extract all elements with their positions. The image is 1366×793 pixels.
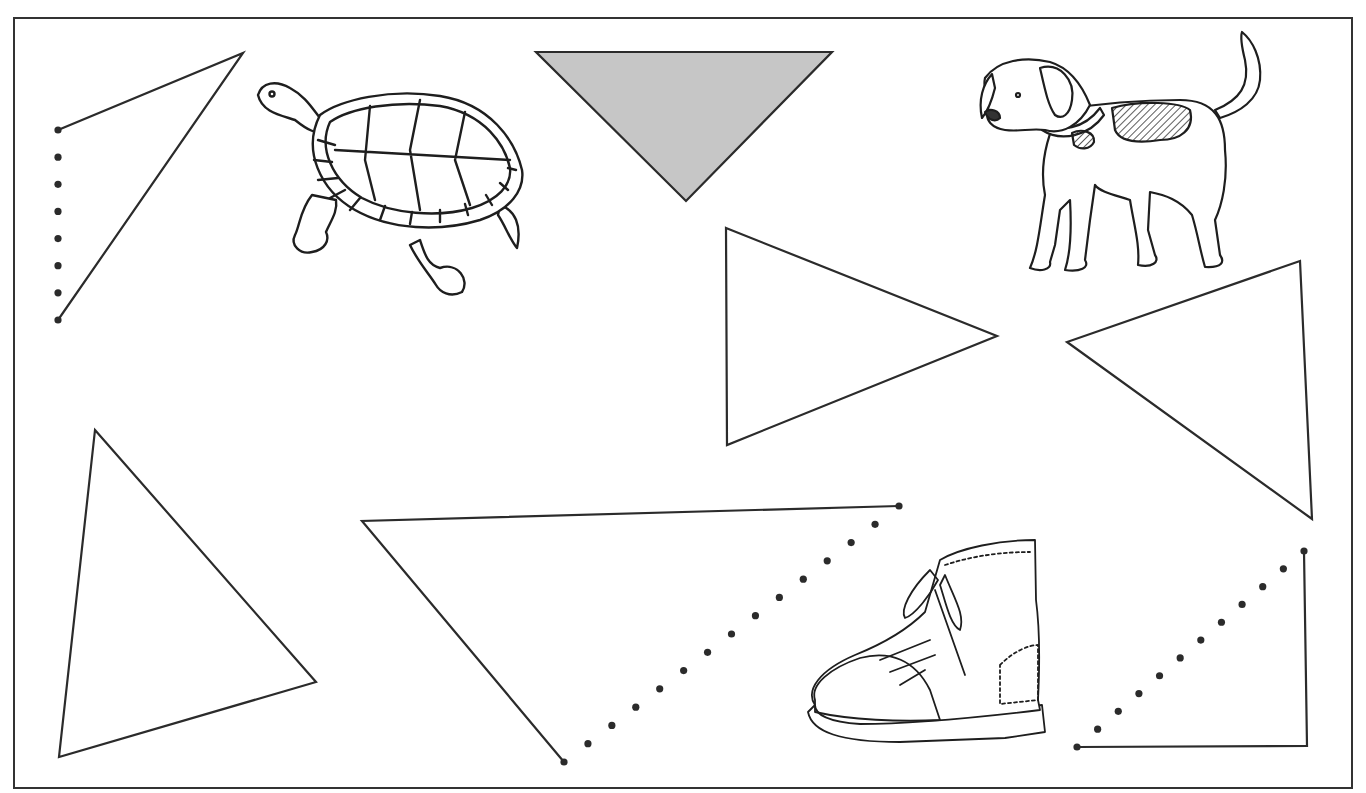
turtle-picture — [258, 83, 522, 294]
trace-dot — [1177, 654, 1184, 661]
triangle-incomplete-top-left-solid-sides — [58, 53, 243, 320]
trace-dot — [752, 612, 759, 619]
trace-dot — [54, 126, 61, 133]
trace-dot — [704, 649, 711, 656]
trace-dot — [895, 502, 902, 509]
trace-dot — [608, 722, 615, 729]
trace-dot — [1073, 743, 1080, 750]
trace-dot — [800, 576, 807, 583]
trace-dot — [54, 208, 61, 215]
dog-picture — [981, 32, 1261, 271]
trace-dot — [54, 235, 61, 242]
trace-dot — [1115, 708, 1122, 715]
trace-dot — [584, 740, 591, 747]
trace-dot — [1197, 636, 1204, 643]
trace-dot — [54, 154, 61, 161]
trace-dot — [1156, 672, 1163, 679]
triangle-pointing-right-outline — [726, 228, 997, 445]
trace-dot — [1280, 565, 1287, 572]
triangle-bottom-left-outline — [59, 430, 316, 757]
trace-dot — [848, 539, 855, 546]
triangle-incomplete-bottom-right — [1073, 547, 1307, 750]
trace-dot — [1218, 619, 1225, 626]
trace-dot — [1238, 601, 1245, 608]
trace-dot — [1259, 583, 1266, 590]
trace-dot — [632, 704, 639, 711]
triangle-pointing-left-outline — [1067, 261, 1312, 519]
turtle-front-leg — [294, 195, 337, 253]
trace-dot — [656, 685, 663, 692]
triangle-bottom-left — [59, 430, 316, 757]
dog-spot-small — [1072, 131, 1094, 149]
boot-picture — [808, 540, 1045, 742]
trace-dot — [1135, 690, 1142, 697]
triangle-pointing-left — [1067, 261, 1312, 519]
dog-tail — [1215, 32, 1260, 118]
trace-dot — [824, 557, 831, 564]
triangle-incomplete-top-left — [54, 53, 243, 324]
trace-dot — [680, 667, 687, 674]
dog-spot — [1112, 103, 1191, 142]
trace-dot — [776, 594, 783, 601]
trace-dot — [871, 521, 878, 528]
trace-dot — [54, 316, 61, 323]
trace-dot — [54, 289, 61, 296]
turtle-back-leg — [410, 240, 465, 294]
trace-dot — [560, 758, 567, 765]
boot-upper — [812, 540, 1040, 724]
trace-dot — [728, 630, 735, 637]
triangle-shaded-top — [536, 52, 832, 201]
dog-eye — [1016, 93, 1020, 97]
trace-dot — [1094, 726, 1101, 733]
triangle-shaded-top-outline — [536, 52, 832, 201]
turtle-eye — [270, 92, 275, 97]
turtle-tail — [498, 205, 519, 248]
triangle-incomplete-bottom-right-solid-sides — [1077, 551, 1307, 747]
trace-dot — [54, 262, 61, 269]
worksheet-page — [0, 0, 1366, 793]
trace-dot — [1300, 547, 1307, 554]
dog-head — [984, 59, 1090, 131]
trace-dot — [54, 181, 61, 188]
triangle-pointing-right — [726, 228, 997, 445]
worksheet-canvas — [0, 0, 1366, 793]
